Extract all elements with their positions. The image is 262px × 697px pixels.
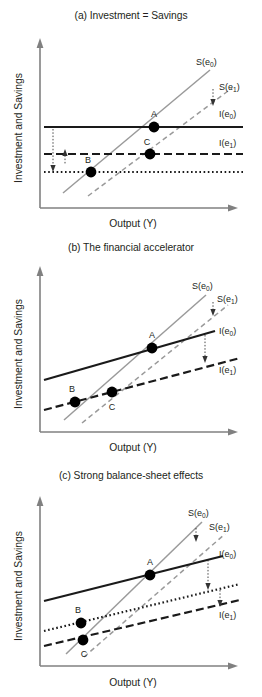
panel-a: (a) Investment = Savings [0,0,262,232]
panel-a-plot: A B C S(e0) S(e1) I(e0) I(e1) Investment… [0,0,262,232]
label-curve-s1: S(e1) [209,522,230,533]
label-curve-i1: I(e1) [219,610,236,621]
label-point-a: A [149,330,155,340]
label-curve-s1: S(e1) [217,294,238,305]
marker-point-c [107,387,118,398]
panel-c-annotation-arrows [193,528,222,607]
curve-s1-panel-c [84,534,225,657]
marker-point-b [86,167,97,178]
label-curve-i0: I(e0) [219,549,236,560]
panel-c-plot: A B C S(e0) S(e1) I(e0) I(e1) Investment… [0,460,262,697]
label-curve-s1: S(e1) [219,82,240,93]
label-point-a: A [147,557,153,567]
curve-s0-panel-b [64,295,206,420]
marker-point-b [76,618,87,629]
label-point-c: C [81,649,88,659]
panel-a-x-axis-label: Output (Y) [109,218,157,229]
label-point-b: B [85,155,91,165]
label-point-c: C [109,402,116,412]
label-point-a: A [151,109,157,119]
label-point-b: B [75,605,81,615]
marker-point-a [145,570,156,581]
panel-c-y-axis-label: Investment and Savings [13,531,24,641]
panel-b-y-axis-label: Investment and Savings [13,299,24,409]
label-curve-s0: S(e0) [196,57,217,68]
marker-point-c [145,149,156,160]
label-curve-i1: I(e1) [219,365,236,376]
panel-a-annotation-arrows [50,89,215,172]
curve-s1-panel-b [82,305,228,423]
curve-s0-panel-a [63,70,210,193]
panel-b: (b) The financial accelerator A B [0,232,262,460]
label-point-b: B [69,384,75,394]
curve-i0-panel-b [44,331,215,380]
label-curve-i0: I(e0) [219,109,236,120]
marker-point-a [147,343,158,354]
marker-point-c [78,635,89,646]
panel-c-axes [37,496,238,669]
panel-c-x-axis-label: Output (Y) [109,677,157,688]
marker-point-b [70,397,81,408]
label-curve-i0: I(e0) [219,326,236,337]
label-point-c: C [144,137,151,147]
marker-point-a [149,122,160,133]
label-curve-s0: S(e0) [188,508,209,519]
figure-investment-savings: (a) Investment = Savings [0,0,262,697]
panel-a-y-axis-label: Investment and Savings [13,73,24,183]
panel-b-x-axis-label: Output (Y) [109,442,157,453]
panel-c: (c) Strong balance-sheet effects [0,460,262,697]
panel-b-plot: A B C S(e0) S(e1) I(e0) I(e1) Investment… [0,232,262,460]
curve-s0-panel-c [66,522,202,654]
label-curve-i1: I(e1) [219,138,236,149]
label-curve-s0: S(e0) [192,281,213,292]
curve-s1-panel-a [88,88,232,196]
